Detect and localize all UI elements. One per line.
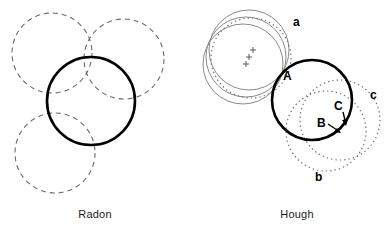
- hough-label-A: A: [283, 69, 292, 83]
- hough-caption: Hough: [252, 208, 342, 220]
- hough-dotted-circle-b: [286, 91, 366, 171]
- hough-label-b: b: [315, 170, 322, 184]
- hough-panel: a b c A B C: [203, 10, 380, 184]
- hough-dotted-circle-a: [211, 18, 291, 98]
- radon-panel: [12, 13, 164, 193]
- hough-label-c: c: [370, 88, 377, 102]
- hough-gray-circle-1: [209, 10, 289, 90]
- hough-label-B: B: [317, 116, 326, 130]
- hough-label-C: C: [334, 99, 343, 113]
- hough-dotted-circle-c: [300, 80, 380, 160]
- figure-canvas: a b c A B C: [0, 0, 391, 233]
- hough-plus-markers: [243, 47, 256, 67]
- radon-dashed-circle-top-right: [84, 19, 164, 99]
- radon-solid-circle: [47, 57, 135, 145]
- radon-caption: Radon: [50, 208, 140, 220]
- figure-container: a b c A B C Radon Hough: [0, 0, 391, 233]
- hough-label-a: a: [293, 15, 300, 29]
